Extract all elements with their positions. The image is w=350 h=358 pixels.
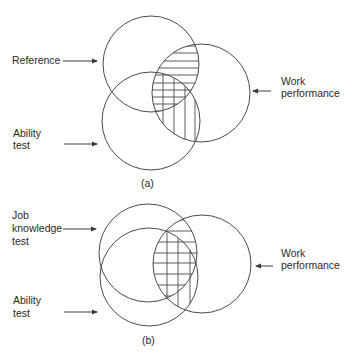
label-work-line2: performance xyxy=(281,87,340,100)
hatch-job-work xyxy=(145,220,210,296)
figure-b xyxy=(63,204,273,330)
caption-a: (a) xyxy=(141,177,154,189)
label-ability-line2: test xyxy=(13,139,30,152)
hatch-ability-work-b xyxy=(167,220,190,330)
circle-work-performance-b xyxy=(153,215,251,313)
label-job-line2: knowledge xyxy=(12,222,62,235)
label-work-b-line1: Work xyxy=(281,247,305,260)
figure-a xyxy=(63,16,271,170)
label-ability-b-line1: Ability xyxy=(13,294,41,307)
label-ability-line1: Ability xyxy=(13,127,41,140)
label-work-line1: Work xyxy=(281,75,305,88)
circle-work-performance xyxy=(152,44,250,142)
circle-reference xyxy=(103,16,199,112)
label-reference: Reference xyxy=(12,54,60,67)
label-ability-b-line2: test xyxy=(13,307,30,320)
label-work-b-line2: performance xyxy=(281,259,340,272)
caption-b: (b) xyxy=(142,334,155,346)
circle-ability-test-b xyxy=(100,228,198,326)
label-job-line1: Job xyxy=(12,209,29,222)
label-job-line3: test xyxy=(12,235,29,248)
